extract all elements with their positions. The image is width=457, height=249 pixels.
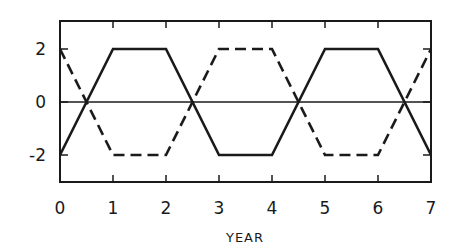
x-tick-label: 2 — [161, 198, 172, 218]
y-tick-label: -2 — [29, 145, 46, 165]
x-tick-label: 3 — [214, 198, 225, 218]
x-tick-label: 5 — [320, 198, 331, 218]
x-axis-title: YEAR — [225, 230, 264, 245]
y-tick-label: 2 — [35, 39, 46, 59]
x-tick-label: 6 — [373, 198, 384, 218]
x-tick-label: 7 — [426, 198, 437, 218]
trapezoid-wave-chart: 01234567 20-2 YEAR — [0, 0, 457, 249]
y-tick-label: 0 — [35, 92, 46, 112]
x-tick-label: 4 — [267, 198, 278, 218]
x-tick-label: 1 — [108, 198, 119, 218]
x-tick-label: 0 — [55, 198, 66, 218]
